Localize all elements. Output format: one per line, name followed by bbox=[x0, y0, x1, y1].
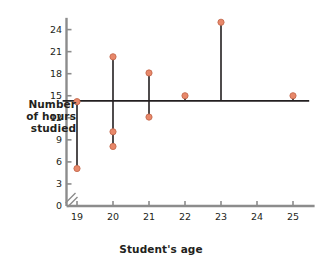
x-tick-label: 23 bbox=[209, 211, 233, 222]
data-point bbox=[146, 70, 152, 76]
data-point bbox=[218, 19, 224, 25]
x-tick-label: 19 bbox=[65, 211, 89, 222]
x-axis-title: Student's age bbox=[0, 243, 322, 255]
chart-container: Numberof hoursstudied Student's age 0369… bbox=[0, 0, 322, 263]
data-point bbox=[110, 129, 116, 135]
data-point bbox=[74, 165, 80, 171]
y-tick-label: 15 bbox=[40, 90, 62, 101]
data-point bbox=[110, 143, 116, 149]
y-tick-label: 18 bbox=[40, 68, 62, 79]
y-tick-label: 24 bbox=[40, 24, 62, 35]
y-axis-title-line: studied bbox=[0, 122, 76, 134]
x-tick-label: 20 bbox=[101, 211, 125, 222]
data-point bbox=[146, 114, 152, 120]
y-tick-label: 9 bbox=[40, 134, 62, 145]
y-tick-label: 21 bbox=[40, 46, 62, 57]
y-axis-title-line: of hours bbox=[0, 110, 76, 122]
data-point bbox=[182, 93, 188, 99]
x-tick-label: 22 bbox=[173, 211, 197, 222]
y-tick-label: 6 bbox=[40, 156, 62, 167]
x-tick-label: 21 bbox=[137, 211, 161, 222]
x-tick-label: 24 bbox=[245, 211, 269, 222]
y-axis-title-line: Number bbox=[0, 98, 76, 110]
y-tick-label: 12 bbox=[40, 112, 62, 123]
x-tick-label: 25 bbox=[281, 211, 305, 222]
y-tick-label: 3 bbox=[40, 178, 62, 189]
y-tick-label: 0 bbox=[40, 200, 62, 211]
data-point bbox=[110, 54, 116, 60]
y-axis-title: Numberof hoursstudied bbox=[0, 98, 76, 134]
data-point bbox=[290, 93, 296, 99]
